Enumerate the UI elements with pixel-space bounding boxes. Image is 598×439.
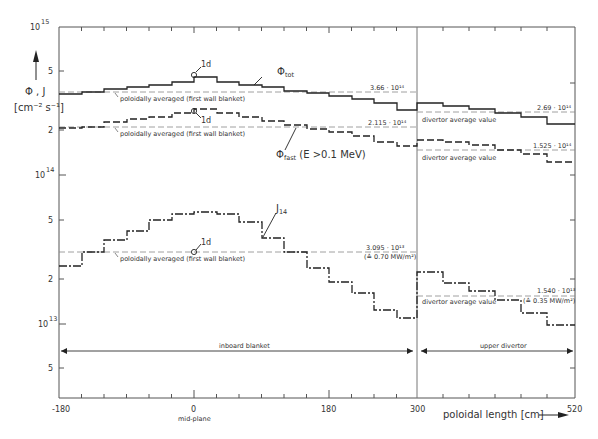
arrow-left-icon — [61, 348, 67, 354]
flux-chart: 10 15 5 2 10 14 5 2 10 13 5 Φ , J [cm⁻² … — [0, 0, 598, 439]
svg-text:divertor average value: divertor average value — [422, 116, 496, 124]
svg-text:poloidally averaged (first wal: poloidally averaged (first wall blanket) — [120, 95, 245, 103]
svg-text:mid-plane: mid-plane — [178, 415, 211, 423]
svg-text:-180: -180 — [52, 405, 70, 414]
svg-text:2: 2 — [48, 126, 53, 135]
svg-text:1d: 1d — [201, 60, 211, 69]
x-tick-labels: -180 0 mid-plane 180 300 520 poloidal le… — [52, 405, 582, 423]
y-tick-labels: 10 15 5 2 10 14 5 2 10 13 5 — [30, 18, 57, 373]
svg-text:1d: 1d — [201, 238, 211, 247]
svg-text:3.095 · 10¹³: 3.095 · 10¹³ — [366, 244, 405, 252]
label-phi-tot: Φtot — [277, 66, 294, 79]
arrow-right-icon — [567, 348, 573, 354]
svg-text:divertor average value: divertor average value — [422, 298, 496, 306]
svg-text:poloidally averaged (first wal: poloidally averaged (first wall blanket) — [120, 255, 245, 263]
svg-text:Φ , J: Φ , J — [25, 86, 45, 97]
svg-text:1d: 1d — [201, 116, 211, 125]
x-axis-label: poloidal length [cm] — [443, 409, 544, 420]
svg-text:2.69 · 10¹⁴: 2.69 · 10¹⁴ — [537, 104, 572, 112]
svg-text:5: 5 — [48, 67, 53, 76]
svg-text:1.540 · 10¹³: 1.540 · 10¹³ — [537, 287, 576, 295]
svg-text:300: 300 — [410, 405, 425, 414]
arrow-right-icon — [407, 348, 413, 354]
svg-text:15: 15 — [41, 18, 49, 26]
svg-text:13: 13 — [49, 315, 57, 323]
svg-text:5: 5 — [48, 364, 53, 373]
svg-text:2: 2 — [48, 275, 53, 284]
y-axis-label: Φ , J [cm⁻² s⁻¹] — [14, 50, 64, 113]
svg-text:5: 5 — [48, 216, 53, 225]
y-tick-1e14: 10 — [35, 171, 45, 180]
svg-text:1.525 · 10¹⁴: 1.525 · 10¹⁴ — [533, 142, 572, 150]
average-lines — [59, 92, 575, 296]
svg-text:14: 14 — [46, 166, 54, 174]
y-tick-1e13: 10 — [38, 320, 48, 329]
average-annotations: poloidally averaged (first wall blanket)… — [115, 84, 576, 306]
region-inboard-blanket: inboard blanket — [219, 342, 270, 350]
svg-text:[cm⁻² s⁻¹]: [cm⁻² s⁻¹] — [14, 102, 64, 113]
svg-text:180: 180 — [321, 405, 336, 414]
region-upper-divertor: upper divertor — [480, 342, 527, 350]
svg-text:2.115 · 10¹⁴: 2.115 · 10¹⁴ — [368, 119, 407, 127]
arrow-left-icon — [421, 348, 427, 354]
label-j14: J14 — [275, 203, 287, 216]
series-j14 — [59, 212, 575, 325]
y-axis-ticks — [59, 71, 575, 368]
svg-text:poloidally averaged (first wal: poloidally averaged (first wall blanket) — [120, 130, 245, 138]
svg-text:(≙ 0.70 MW/m²): (≙ 0.70 MW/m²) — [364, 253, 416, 261]
arrow-up-icon — [33, 50, 39, 62]
label-phi-fast: Φfast (E >0.1 MeV) — [276, 149, 366, 162]
svg-text:divertor average value: divertor average value — [422, 154, 496, 162]
x-axis-ticks — [82, 27, 548, 398]
svg-text:0: 0 — [191, 405, 196, 414]
y-tick-1e15: 10 — [30, 23, 40, 32]
svg-text:3.66 · 10¹⁴: 3.66 · 10¹⁴ — [370, 84, 405, 92]
svg-text:520: 520 — [567, 405, 582, 414]
svg-text:(≙ 0.35 MW/m²): (≙ 0.35 MW/m²) — [523, 297, 575, 305]
